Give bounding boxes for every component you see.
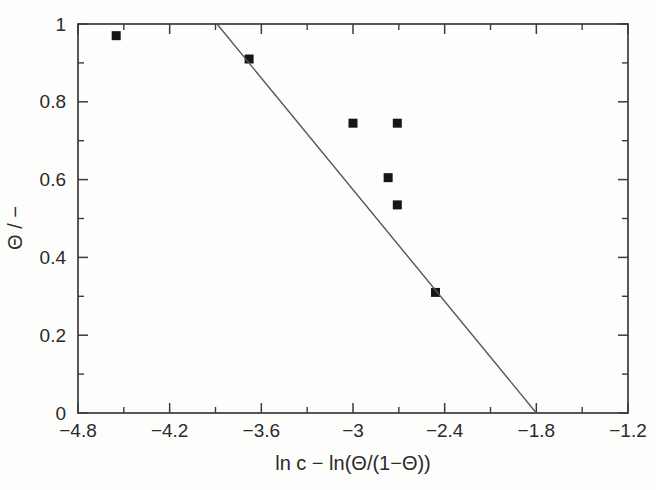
- y-tick-label: 0.6: [40, 169, 66, 190]
- x-tick-label: −1.2: [609, 420, 647, 441]
- data-point: [349, 119, 358, 128]
- chart-background: [0, 0, 656, 490]
- data-point: [393, 119, 402, 128]
- y-tick-label: 1: [55, 14, 66, 35]
- y-tick-label: 0.8: [40, 91, 66, 112]
- y-tick-label: 0.4: [40, 247, 67, 268]
- y-tick-label: 0: [55, 403, 66, 424]
- y-tick-label: 0.2: [40, 325, 66, 346]
- x-axis-label: ln c − ln(Θ/(1−Θ)): [275, 452, 431, 474]
- x-tick-label: −3.6: [243, 420, 281, 441]
- data-point: [384, 173, 393, 182]
- x-tick-label: −4.2: [151, 420, 189, 441]
- x-tick-label: −2.4: [426, 420, 464, 441]
- scatter-chart: −4.8−4.2−3.6−3−2.4−1.8−1.200.20.40.60.81…: [0, 0, 656, 490]
- data-point: [112, 31, 121, 40]
- x-tick-label: −1.8: [518, 420, 556, 441]
- x-tick-label: −3: [342, 420, 364, 441]
- y-axis-label: Θ / −: [4, 206, 26, 250]
- data-point: [393, 200, 402, 209]
- scatter-chart-figure: −4.8−4.2−3.6−3−2.4−1.8−1.200.20.40.60.81…: [0, 0, 656, 490]
